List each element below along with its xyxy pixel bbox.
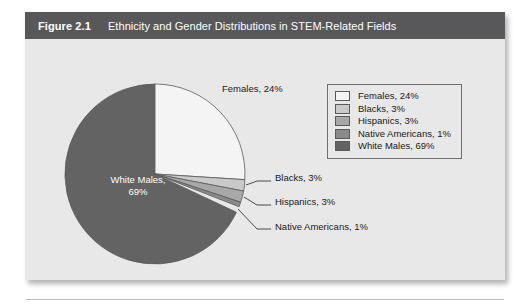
leader-line-blacks bbox=[246, 181, 271, 185]
legend-swatch-blacks bbox=[335, 104, 350, 114]
pie-label-native-americans: Native Americans, 1% bbox=[275, 221, 368, 232]
pie-chart-svg bbox=[25, 39, 505, 280]
figure-container: Figure 2.1 Ethnicity and Gender Distribu… bbox=[25, 12, 505, 280]
legend-swatch-white-males bbox=[335, 141, 350, 151]
legend-label-hispanics: Hispanics, 3% bbox=[358, 115, 418, 127]
figure-title-label: Ethnicity and Gender Distributions in ST… bbox=[108, 20, 396, 32]
legend-swatch-females bbox=[335, 91, 350, 101]
legend-item[interactable]: Native Americans, 1% bbox=[335, 128, 451, 140]
legend-label-females: Females, 24% bbox=[358, 90, 419, 102]
figure-number-label: Figure 2.1 bbox=[38, 20, 91, 32]
legend-label-native-americans: Native Americans, 1% bbox=[358, 128, 451, 140]
legend-label-blacks: Blacks, 3% bbox=[358, 103, 405, 115]
legend-swatch-hispanics bbox=[335, 116, 350, 126]
figure-header-bar: Figure 2.1 Ethnicity and Gender Distribu… bbox=[25, 12, 505, 39]
pie-label-hispanics: Hispanics, 3% bbox=[275, 196, 335, 207]
pie-label-females: Females, 24% bbox=[222, 83, 283, 94]
leader-line-hispanics bbox=[244, 197, 271, 205]
legend-item[interactable]: Hispanics, 3% bbox=[335, 115, 451, 127]
legend-item[interactable]: Blacks, 3% bbox=[335, 103, 451, 115]
pie-label-white-males-line1: White Males, bbox=[90, 174, 186, 186]
pie-label-white-males-line2: 69% bbox=[90, 186, 186, 198]
legend-item[interactable]: White Males, 69% bbox=[335, 140, 451, 152]
legend-swatch-native-americans bbox=[335, 129, 350, 139]
chart-plot-area: White Males, 69% Females, 24% Blacks, 3%… bbox=[25, 39, 505, 280]
pie-label-white-males: White Males, 69% bbox=[90, 174, 186, 197]
page-divider-rule bbox=[26, 299, 504, 300]
chart-legend: Females, 24% Blacks, 3% Hispanics, 3% Na… bbox=[327, 84, 462, 159]
legend-item[interactable]: Females, 24% bbox=[335, 90, 451, 102]
legend-label-white-males: White Males, 69% bbox=[358, 140, 435, 152]
leader-line-native-americans bbox=[238, 209, 271, 229]
pie-slice-females[interactable] bbox=[155, 84, 245, 180]
pie-label-blacks: Blacks, 3% bbox=[275, 172, 322, 183]
